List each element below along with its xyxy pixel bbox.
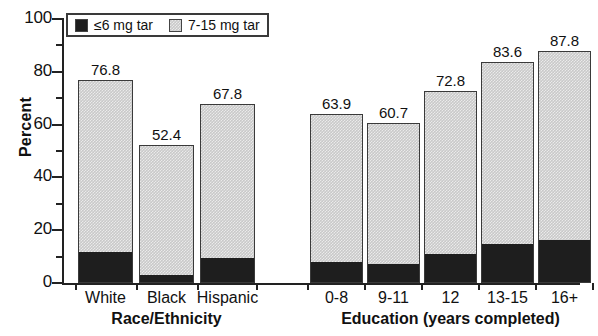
- bar-segment-mid-tar: [482, 63, 533, 245]
- bar-value-label: 87.8: [528, 32, 598, 49]
- bar-segment-low-tar: [368, 264, 419, 282]
- bar: [139, 145, 194, 283]
- y-tick-major: [52, 229, 63, 231]
- bar-segment-low-tar: [79, 252, 132, 282]
- bar: [200, 104, 255, 283]
- y-tick-minor: [56, 44, 63, 46]
- y-tick-minor: [56, 203, 63, 205]
- y-tick-minor: [56, 150, 63, 152]
- bar-segment-low-tar: [140, 275, 193, 282]
- bar: [424, 91, 477, 283]
- bar: [367, 123, 420, 283]
- y-tick-major: [52, 124, 63, 126]
- bar-segment-mid-tar: [311, 115, 362, 264]
- legend-item-mid-tar: 7-15 mg tar: [169, 17, 260, 33]
- legend-label-low-tar: ≤6 mg tar: [94, 17, 153, 33]
- y-tick-label: 100: [4, 8, 52, 28]
- bar: [481, 62, 534, 283]
- y-tick-major: [52, 71, 63, 73]
- legend-item-low-tar: ≤6 mg tar: [75, 17, 153, 33]
- x-tick-label: 16+: [526, 289, 598, 307]
- bar-segment-low-tar: [201, 258, 254, 282]
- group-axis-title: Race/Ethnicity: [48, 310, 285, 328]
- y-tick-major: [52, 18, 63, 20]
- bar: [78, 80, 133, 283]
- y-tick-minor: [56, 256, 63, 258]
- bar-segment-mid-tar: [140, 146, 193, 278]
- x-tick: [592, 283, 594, 290]
- y-axis-title: Percent: [17, 57, 35, 197]
- x-tick-label: Hispanic: [188, 289, 267, 307]
- bar-segment-mid-tar: [539, 52, 590, 242]
- bar: [310, 114, 363, 283]
- bar-value-label: 52.4: [129, 126, 204, 143]
- legend-swatch-light-icon: [169, 19, 182, 32]
- bar-value-label: 67.8: [190, 85, 265, 102]
- bar-segment-low-tar: [425, 254, 476, 282]
- bar-segment-low-tar: [482, 244, 533, 282]
- bar-segment-low-tar: [311, 262, 362, 282]
- bar-segment-mid-tar: [79, 81, 132, 253]
- y-tick-minor: [56, 97, 63, 99]
- bar-value-label: 76.8: [68, 61, 143, 78]
- bar-segment-mid-tar: [368, 124, 419, 266]
- bar-segment-mid-tar: [425, 92, 476, 256]
- y-tick-major: [52, 176, 63, 178]
- x-axis-line: [62, 283, 580, 285]
- y-tick-label: 0: [4, 272, 52, 292]
- bar: [538, 51, 591, 283]
- legend-swatch-dark-icon: [75, 19, 88, 32]
- bar-segment-mid-tar: [201, 105, 254, 260]
- x-tick: [256, 283, 258, 290]
- legend-label-mid-tar: 7-15 mg tar: [188, 17, 260, 33]
- bar-segment-low-tar: [539, 240, 590, 282]
- chart-legend: ≤6 mg tar 7-15 mg tar: [66, 13, 269, 37]
- group-axis-title: Education (years completed): [280, 310, 598, 328]
- bar-value-label: 72.8: [414, 72, 487, 89]
- bar-value-label: 60.7: [357, 104, 430, 121]
- y-tick-label: 20: [4, 219, 52, 239]
